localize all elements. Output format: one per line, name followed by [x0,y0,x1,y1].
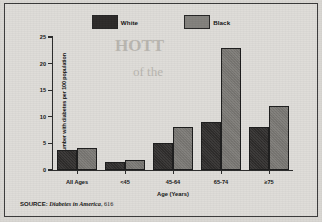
y-tick-label: 5 [43,140,46,146]
chart-legend: White Black [5,15,317,29]
bar-black[interactable] [221,48,241,170]
bar-black[interactable] [173,127,193,170]
bar-group: 65-74 [201,37,241,170]
bar-black[interactable] [125,160,145,170]
source-note: SOURCE: Diabetes in America, 616 [20,200,113,207]
bar-group: 45-64 [153,37,193,170]
bar-group: All Ages [57,37,97,170]
bar-black[interactable] [269,106,289,170]
plot-area: Number with diabetes per 100 population … [53,37,293,170]
bar-white[interactable] [153,143,173,170]
x-category-label: 65-74 [214,179,228,185]
source-page: , 616 [101,200,113,207]
x-tick [221,170,222,174]
bar-white[interactable] [105,162,125,171]
x-category-label: 45-64 [166,179,180,185]
x-category-label: ≥75 [264,179,273,185]
legend-item-white: White [92,15,138,29]
x-tick [77,170,78,174]
bar-group: ≥75 [249,37,289,170]
x-category-label: <45 [120,179,130,185]
y-tick-label: 25 [40,34,46,40]
y-tick-label: 20 [40,61,46,67]
x-tick [125,170,126,174]
legend-swatch-white-icon [92,15,118,29]
x-tick [173,170,174,174]
figure-frame: HOTT of the White Black Number with diab… [4,3,318,217]
x-axis-title: Age (Years) [53,191,293,197]
x-tick [269,170,270,174]
legend-item-black: Black [184,15,230,29]
legend-swatch-black-icon [184,15,210,29]
bar-group: <45 [105,37,145,170]
figure-canvas: HOTT of the White Black Number with diab… [0,0,322,222]
bar-black[interactable] [77,148,97,170]
bar-groups: All Ages<4545-6465-74≥75 [53,37,293,170]
y-tick-label: 15 [40,87,46,93]
bar-white[interactable] [249,127,269,170]
bar-white[interactable] [201,122,221,170]
legend-label-white: White [121,19,138,26]
bar-white[interactable] [57,150,77,170]
y-tick-label: 10 [40,114,46,120]
x-category-label: All Ages [66,179,88,185]
source-title: Diabetes in America [49,200,101,207]
source-keyword: SOURCE: [20,201,48,207]
legend-label-black: Black [213,19,230,26]
y-tick-label: 0 [43,167,46,173]
